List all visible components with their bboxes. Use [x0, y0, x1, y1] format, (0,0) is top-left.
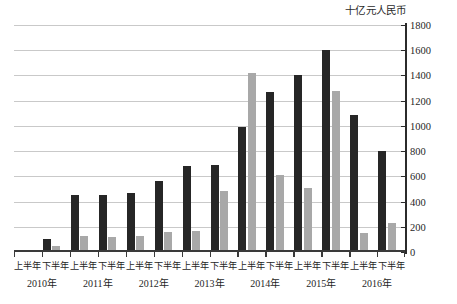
y-axis-tick-mark — [401, 75, 406, 76]
bar-group — [98, 25, 126, 252]
plot-area — [14, 25, 405, 252]
bar-group — [237, 25, 265, 252]
y-axis-spine — [405, 23, 407, 254]
x-axis-half-year-labels: 上半年下半年上半年下半年上半年下半年上半年下半年上半年下半年上半年下半年上半年下… — [14, 258, 405, 274]
x-axis-year-label: 2010年 — [27, 275, 57, 290]
y-axis-tick-label: 800 — [410, 146, 426, 157]
bar-group — [210, 25, 238, 252]
x-axis-half-year-label: 下半年 — [154, 258, 181, 272]
bar-light — [248, 73, 256, 252]
y-axis-tick-label: 1200 — [410, 95, 431, 106]
bar-dark — [211, 165, 219, 252]
x-axis-tick-mark — [126, 252, 127, 257]
bar-light — [360, 233, 368, 252]
x-axis-tick-mark — [210, 252, 211, 257]
bar-dark — [71, 195, 79, 252]
bar-group — [182, 25, 210, 252]
y-axis-tick-mark — [401, 101, 406, 102]
x-axis-half-year-label: 下半年 — [210, 258, 237, 272]
bar-group — [14, 25, 42, 252]
x-axis-year-label: 2013年 — [195, 275, 225, 290]
x-axis-half-year-label: 上半年 — [14, 258, 41, 272]
x-axis-half-year-label: 下半年 — [42, 258, 69, 272]
x-axis-half-year-label: 上半年 — [126, 258, 153, 272]
bar-dark — [350, 115, 358, 252]
x-axis-year-label: 2015年 — [306, 275, 336, 290]
chart-root: 十亿元人民币 020040060080010001200140016001800… — [0, 0, 457, 304]
bar-series-group — [14, 25, 405, 252]
x-axis-tick-mark — [154, 252, 155, 257]
bar-dark — [322, 50, 330, 252]
x-axis-tick-mark — [70, 252, 71, 257]
x-axis-half-year-label: 上半年 — [294, 258, 321, 272]
y-axis-tick-label: 1600 — [410, 45, 431, 56]
bar-light — [220, 191, 228, 252]
y-axis-tick-mark — [401, 50, 406, 51]
bar-light — [276, 175, 284, 252]
y-axis-tick-label: 400 — [410, 196, 426, 207]
y-axis-tick-mark — [401, 176, 406, 177]
bar-dark — [378, 151, 386, 252]
bar-dark — [99, 195, 107, 252]
bar-group — [321, 25, 349, 252]
x-axis-half-year-label: 下半年 — [266, 258, 293, 272]
x-axis-tick-mark — [377, 252, 378, 257]
bar-dark — [155, 181, 163, 252]
y-axis-tick-label: 600 — [410, 171, 426, 182]
x-axis-half-year-label: 下半年 — [98, 258, 125, 272]
x-axis-year-labels: 2010年2011年2012年2013年2014年2015年2016年 — [14, 275, 405, 291]
bar-group — [349, 25, 377, 252]
y-axis-tick-mark — [401, 25, 406, 26]
bar-dark — [238, 127, 246, 252]
x-axis-tick-mark — [182, 252, 183, 257]
y-axis-tick-mark — [401, 227, 406, 228]
bar-group — [377, 25, 405, 252]
x-axis-half-year-label: 上半年 — [70, 258, 97, 272]
x-axis-half-year-label: 上半年 — [182, 258, 209, 272]
x-axis-tick-mark — [14, 252, 15, 257]
y-axis-tick-mark — [401, 202, 406, 203]
y-axis-tick-label: 1000 — [410, 120, 431, 131]
x-axis-year-label: 2012年 — [139, 275, 169, 290]
bar-dark — [294, 75, 302, 252]
bar-group — [42, 25, 70, 252]
x-axis-year-label: 2011年 — [83, 275, 113, 290]
bar-group — [70, 25, 98, 252]
y-axis-unit-caption: 十亿元人民币 — [345, 2, 407, 17]
y-axis-tick-label: 0 — [410, 247, 415, 258]
y-axis-tick-label: 1400 — [410, 70, 431, 81]
x-axis-half-year-label: 上半年 — [238, 258, 265, 272]
y-axis-tick-mark — [401, 151, 406, 152]
x-axis-tick-mark — [293, 252, 294, 257]
y-axis-tick-mark — [401, 126, 406, 127]
bar-group — [293, 25, 321, 252]
bar-dark — [183, 166, 191, 252]
x-axis-half-year-label: 下半年 — [322, 258, 349, 272]
bar-group — [154, 25, 182, 252]
bar-light — [192, 231, 200, 252]
bar-group — [126, 25, 154, 252]
x-axis-tick-mark — [321, 252, 322, 257]
bar-light — [388, 223, 396, 252]
bar-group — [265, 25, 293, 252]
bar-dark — [127, 193, 135, 252]
x-axis-half-year-label: 下半年 — [378, 258, 405, 272]
y-axis-tick-label: 1800 — [410, 20, 431, 31]
bar-dark — [266, 92, 274, 252]
x-axis-tick-mark — [237, 252, 238, 257]
x-axis-year-label: 2016年 — [362, 275, 392, 290]
x-axis-year-label: 2014年 — [250, 275, 280, 290]
bar-light — [304, 188, 312, 252]
x-axis-tick-mark — [98, 252, 99, 257]
x-axis-tick-mark — [265, 252, 266, 257]
x-axis-tick-mark — [349, 252, 350, 257]
y-axis-tick-label: 200 — [410, 221, 426, 232]
x-axis-tick-mark — [42, 252, 43, 257]
bar-light — [164, 232, 172, 252]
bar-light — [332, 91, 340, 252]
x-axis-half-year-label: 上半年 — [350, 258, 377, 272]
x-axis-tick-mark — [404, 252, 405, 257]
